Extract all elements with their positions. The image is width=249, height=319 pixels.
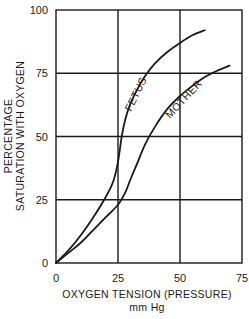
y-tick-label: 100 — [30, 4, 48, 16]
x-axis-unit: mm Hg — [129, 301, 164, 313]
y-axis-label-line2: SATURATION WITH OXYGEN — [14, 61, 26, 211]
fetus-curve — [56, 30, 205, 263]
mother-curve-label: MOTHER — [163, 77, 204, 120]
y-axis-label-line1: PERCENTAGE — [2, 99, 14, 174]
x-tick-label: 50 — [174, 272, 186, 284]
oxygen-dissociation-chart: 0255075100 0255075 FETUS MOTHER PERCENTA… — [0, 0, 249, 319]
curves — [56, 30, 230, 263]
y-tick-label: 25 — [36, 194, 48, 206]
x-axis-ticks: 0255075 — [53, 272, 248, 284]
x-tick-label: 75 — [236, 272, 248, 284]
x-axis-label: OXYGEN TENSION (PRESSURE) — [62, 288, 232, 300]
y-axis-ticks: 0255075100 — [30, 4, 48, 269]
y-tick-label: 75 — [36, 67, 48, 79]
y-tick-label: 0 — [42, 257, 48, 269]
x-tick-label: 0 — [53, 272, 59, 284]
y-tick-label: 50 — [36, 131, 48, 143]
x-tick-label: 25 — [112, 272, 124, 284]
fetus-curve-label: FETUS — [122, 75, 149, 113]
